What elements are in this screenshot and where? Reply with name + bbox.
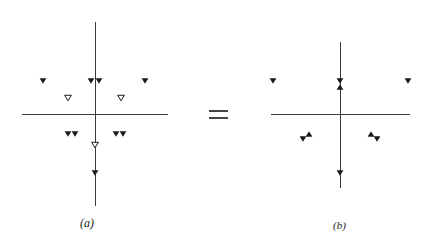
filled-down-triangle-icon — [120, 131, 127, 137]
filled-up-triangle-icon — [368, 131, 375, 137]
panel-b-caption: (b) — [333, 219, 346, 231]
open-down-triangle-icon — [118, 95, 125, 101]
filled-down-triangle-icon — [88, 78, 95, 84]
equals-bar-top — [209, 110, 228, 112]
filled-down-triangle-icon — [96, 78, 103, 84]
filled-down-triangle-icon — [113, 131, 120, 137]
filled-up-triangle-icon — [337, 84, 344, 90]
filled-down-triangle-icon — [72, 131, 79, 137]
equals-bar-bottom — [209, 117, 228, 119]
panel-b-diagram — [270, 42, 412, 188]
filled-down-triangle-icon — [337, 170, 344, 176]
filled-down-triangle-icon — [300, 136, 307, 142]
filled-down-triangle-icon — [374, 136, 381, 142]
filled-down-triangle-icon — [40, 78, 47, 84]
figure-canvas — [0, 0, 425, 244]
filled-down-triangle-icon — [92, 170, 99, 176]
filled-down-triangle-icon — [142, 78, 149, 84]
filled-up-triangle-icon — [306, 131, 313, 137]
filled-down-triangle-icon — [337, 78, 344, 84]
filled-down-triangle-icon — [65, 131, 72, 137]
panel-a-markers — [40, 78, 149, 176]
panel-a-diagram — [22, 22, 168, 206]
open-down-triangle-icon — [92, 142, 99, 148]
panel-a-caption: (a) — [80, 216, 94, 231]
filled-down-triangle-icon — [405, 78, 412, 84]
open-down-triangle-icon — [65, 95, 72, 101]
filled-down-triangle-icon — [270, 78, 277, 84]
